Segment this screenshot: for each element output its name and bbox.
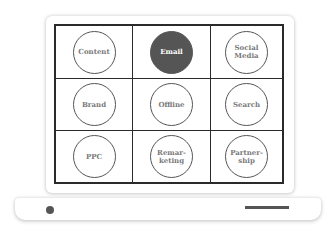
channel-label: Email [160,48,183,56]
grid-cell-social-media[interactable]: Social Media [211,26,282,79]
channel-circle[interactable]: PPC [73,135,116,178]
channel-grid: Content Email Social Media Brand Offline… [54,24,284,184]
channel-circle[interactable]: Social Media [225,31,268,74]
channel-label: Brand [82,101,106,109]
grid-cell-brand[interactable]: Brand [56,79,133,131]
trackpad-slot-icon [245,206,289,209]
channel-circle-selected[interactable]: Email [150,31,193,74]
grid-cell-remarketing[interactable]: Remar- keting [133,131,211,182]
channel-label: PPC [86,153,102,161]
laptop-base [15,198,321,220]
channel-circle[interactable]: Content [73,31,116,74]
channel-label: Content [78,48,109,56]
channel-circle[interactable]: Remar- keting [150,135,193,178]
channel-label: Remar- keting [157,149,186,165]
grid-cell-content[interactable]: Content [56,26,133,79]
grid-cell-email[interactable]: Email [133,26,211,79]
grid-cell-search[interactable]: Search [211,79,282,131]
channel-label: Offline [158,101,184,109]
channel-label: Partner- ship [230,149,263,165]
channel-circle[interactable]: Brand [73,83,116,126]
channel-label: Social Media [234,44,258,60]
grid-cell-ppc[interactable]: PPC [56,131,133,182]
grid-cell-offline[interactable]: Offline [133,79,211,131]
power-indicator-icon [46,206,54,214]
channel-circle[interactable]: Partner- ship [225,135,268,178]
channel-label: Search [233,101,260,109]
channel-circle[interactable]: Offline [150,83,193,126]
channel-circle[interactable]: Search [225,83,268,126]
grid-cell-partnership[interactable]: Partner- ship [211,131,282,182]
